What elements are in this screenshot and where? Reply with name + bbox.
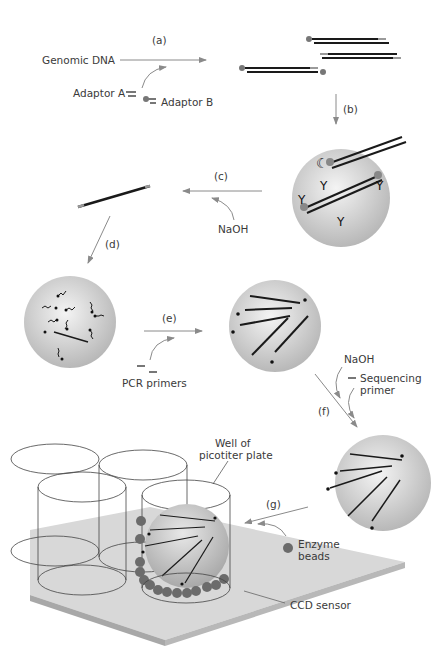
capture-bead: ☾ Y Y Y Y	[292, 137, 406, 247]
step-a: Genomic DNA (a) Adaptor A Adaptor B	[42, 34, 401, 108]
pcr-primers-label: PCR primers	[122, 377, 187, 389]
seq-primer-curve-arrow	[349, 388, 355, 418]
svg-text:Y: Y	[375, 179, 384, 193]
step-e: (e) PCR primers	[122, 280, 321, 389]
adaptor-a-icon	[126, 92, 136, 96]
svg-text:Y: Y	[319, 179, 328, 193]
step-f-label: (f)	[318, 405, 330, 417]
enzyme-label-2: beads	[298, 550, 330, 562]
well-leader-line	[213, 461, 228, 484]
adaptor-curve-arrow	[142, 67, 166, 88]
step-d-label: (d)	[105, 238, 120, 250]
primed-bead	[326, 435, 431, 531]
naoh-curve-arrow	[212, 198, 234, 220]
sequencing-primer-label-2: primer	[360, 384, 396, 396]
step-c-label: (c)	[214, 170, 228, 182]
adaptor-b-icon	[143, 96, 156, 103]
naoh-f-curve-arrow	[336, 367, 342, 398]
step-e-label: (e)	[162, 312, 177, 324]
svg-text:☾: ☾	[316, 155, 329, 171]
step-d: (d)	[24, 216, 120, 368]
naoh-f-label: NaOH	[344, 353, 374, 365]
step-a-label: (a)	[152, 34, 167, 46]
step-g-label: (g)	[266, 498, 281, 510]
svg-text:Y: Y	[336, 215, 345, 229]
step-f: (f) NaOH Sequencing primer	[315, 353, 431, 531]
ligated-fragments	[239, 36, 401, 75]
sequencing-primer-label-1: Sequencing	[360, 372, 422, 384]
emulsion-bead	[24, 276, 116, 368]
pcr-primer-icon	[137, 366, 157, 372]
step-b: (b) ☾ Y Y Y Y	[292, 94, 406, 247]
svg-text:Y: Y	[297, 193, 306, 207]
well-label-1: Well of	[215, 437, 251, 449]
pyrosequencing-diagram: Genomic DNA (a) Adaptor A Adaptor B	[0, 0, 438, 669]
enzyme-label-1: Enzyme	[298, 538, 340, 550]
genomic-dna-label: Genomic DNA	[42, 54, 116, 66]
adaptor-b-label: Adaptor B	[161, 96, 213, 108]
naoh-c-label: NaOH	[218, 223, 248, 235]
single-strand-dna	[78, 186, 150, 207]
amplified-bead	[229, 280, 321, 372]
step-b-label: (b)	[343, 103, 358, 115]
well-label-2: picotiter plate	[199, 449, 273, 461]
ccd-sensor-label: CCD sensor	[290, 599, 352, 611]
enzyme-bead-icon	[283, 543, 293, 553]
adaptor-a-label: Adaptor A	[73, 87, 126, 99]
pcr-curve-arrow	[150, 338, 174, 360]
